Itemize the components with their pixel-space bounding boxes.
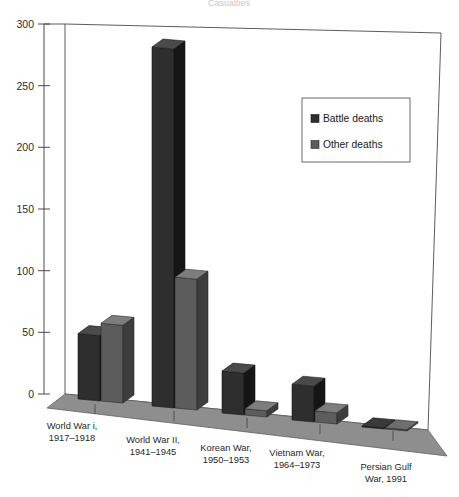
cat-label-gulf-line1: Persian Gulf xyxy=(360,462,412,472)
legend-box xyxy=(302,98,410,162)
cat-label-wwii-line1: World War II, xyxy=(126,435,180,445)
y-tick-label-250: 250 xyxy=(16,80,34,92)
y-tick-label-0: 0 xyxy=(28,388,34,400)
legend-label-battle-deaths: Battle deaths xyxy=(323,113,383,124)
y-tick-label-200: 200 xyxy=(16,141,34,153)
bar-other-wwi-front xyxy=(101,323,123,403)
y-tick-label-150: 150 xyxy=(16,203,34,215)
y-tick-label-50: 50 xyxy=(22,326,34,338)
bar-chart-3d: Casualties 300 250 200 150 100 50 0 xyxy=(0,0,459,497)
legend: Battle deaths Other deaths xyxy=(302,98,410,162)
bar-battle-wwi-front xyxy=(78,334,100,401)
bar-other-wwii-front xyxy=(175,277,197,410)
cat-label-wwi-line2: 1917–1918 xyxy=(49,433,96,443)
bar-other-wwi-side xyxy=(123,317,134,403)
y-axis: 300 250 200 150 100 50 0 xyxy=(16,18,50,400)
chart-title: Casualties xyxy=(208,0,251,8)
y-tick-label-100: 100 xyxy=(16,265,34,277)
legend-swatch-battle-deaths xyxy=(311,115,319,123)
cat-label-gulf-line2: War, 1991 xyxy=(365,474,407,484)
cat-label-korea-line1: Korean War, xyxy=(200,443,251,453)
chart-container: Casualties 300 250 200 150 100 50 0 xyxy=(0,0,459,497)
cat-label-wwi-line1: World War i, xyxy=(47,421,98,431)
bar-group-world-war-i xyxy=(78,315,134,403)
cat-label-vietnam-line1: Vietnam War, xyxy=(269,448,324,458)
cat-label-wwii-line2: 1941–1945 xyxy=(130,447,177,457)
cat-label-vietnam-line2: 1964–1973 xyxy=(274,460,321,470)
bar-other-wwii-side xyxy=(197,271,208,410)
legend-swatch-other-deaths xyxy=(311,141,319,149)
bar-battle-korea-front xyxy=(222,371,244,415)
legend-label-other-deaths: Other deaths xyxy=(323,139,383,150)
bar-battle-vietnam-front xyxy=(292,384,314,422)
cat-label-korea-line2: 1950–1953 xyxy=(203,455,250,465)
y-tick-label-300: 300 xyxy=(16,18,34,30)
bar-battle-wwii-front xyxy=(152,47,174,408)
